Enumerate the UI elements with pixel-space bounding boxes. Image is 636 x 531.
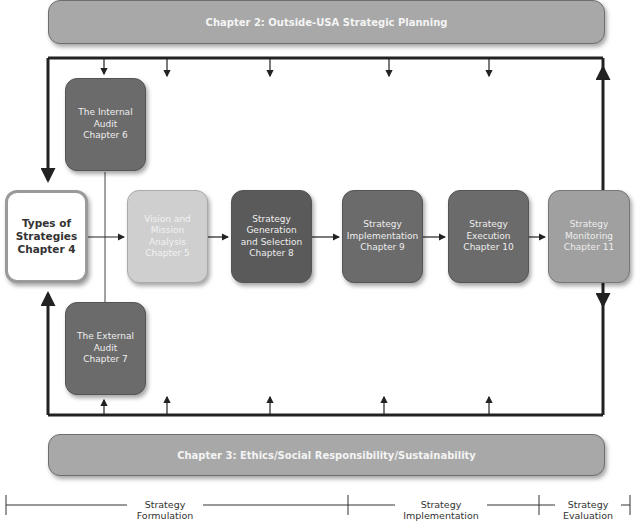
strategy-implementation-box: Strategy Implementation Chapter 9 <box>342 190 423 283</box>
timeline-implementation-label: Strategy Implementation <box>395 499 487 521</box>
timeline-formulation-label: Strategy Formulation <box>127 499 203 521</box>
outside-usa-label: Chapter 2: Outside-USA Strategic Plannin… <box>206 17 448 28</box>
strategy-generation-label: Strategy Generation and Selection Chapte… <box>241 214 302 260</box>
vision-mission-label: Vision and Mission Analysis Chapter 5 <box>144 214 191 260</box>
external-audit-box: The External Audit Chapter 7 <box>65 302 146 395</box>
external-audit-label: The External Audit Chapter 7 <box>77 331 134 366</box>
strategy-monitoring-label: Strategy Monitoring Chapter 11 <box>564 219 614 254</box>
strategy-generation-box: Strategy Generation and Selection Chapte… <box>231 190 312 283</box>
timeline-evaluation-label: Strategy Evaluation <box>555 499 621 521</box>
types-of-strategies-label: Types of Strategies Chapter 4 <box>16 217 77 256</box>
types-of-strategies-box: Types of Strategies Chapter 4 <box>5 190 88 283</box>
ethics-label: Chapter 3: Ethics/Social Responsibility/… <box>177 450 476 461</box>
outside-usa-banner: Chapter 2: Outside-USA Strategic Plannin… <box>48 0 605 44</box>
vision-mission-box: Vision and Mission Analysis Chapter 5 <box>127 190 208 283</box>
strategy-monitoring-box: Strategy Monitoring Chapter 11 <box>548 190 630 283</box>
strategy-execution-box: Strategy Execution Chapter 10 <box>448 190 529 283</box>
strategy-implementation-label: Strategy Implementation Chapter 9 <box>347 219 418 254</box>
ethics-banner: Chapter 3: Ethics/Social Responsibility/… <box>48 434 605 476</box>
internal-audit-box: The Internal Audit Chapter 6 <box>65 78 146 171</box>
strategy-execution-label: Strategy Execution Chapter 10 <box>463 219 513 254</box>
internal-audit-label: The Internal Audit Chapter 6 <box>78 107 132 142</box>
